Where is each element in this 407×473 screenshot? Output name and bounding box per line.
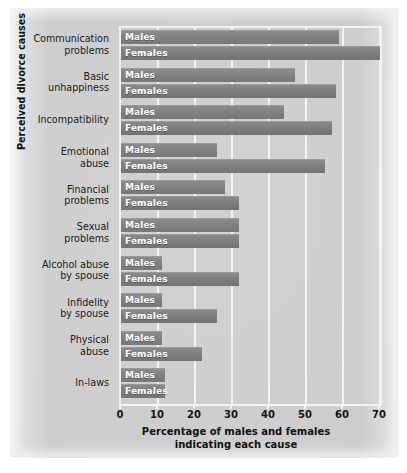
bar-series-label: Females bbox=[125, 196, 168, 210]
category-label-line: In-laws bbox=[0, 377, 109, 389]
bar-group: MalesFemales bbox=[121, 28, 380, 66]
x-tick-label-40: 40 bbox=[261, 409, 275, 420]
category-label: Sexualproblems bbox=[0, 221, 109, 244]
bar-series-label: Females bbox=[125, 234, 168, 248]
bar-group: MalesFemales bbox=[121, 254, 380, 292]
category-label: Infidelityby spouse bbox=[0, 297, 109, 320]
bar-series-label: Females bbox=[125, 121, 168, 135]
category-label: Incompatibility bbox=[0, 114, 109, 126]
category-label: Emotionalabuse bbox=[0, 146, 109, 169]
x-axis-title: Percentage of males and females indicati… bbox=[86, 425, 386, 451]
bar-series-label: Males bbox=[125, 143, 155, 157]
bar-groups: MalesFemalesMalesFemalesMalesFemalesMale… bbox=[121, 28, 380, 404]
bar-series-label: Males bbox=[125, 331, 155, 345]
bar-series-label: Females bbox=[125, 384, 168, 398]
category-label: Communicationproblems bbox=[0, 33, 109, 56]
bar-group: MalesFemales bbox=[121, 329, 380, 367]
bar-group: MalesFemales bbox=[121, 178, 380, 216]
bar-group: MalesFemales bbox=[121, 291, 380, 329]
bar-group: MalesFemales bbox=[121, 66, 380, 104]
category-label-line: Basic bbox=[0, 71, 109, 83]
bar-series-label: Males bbox=[125, 218, 155, 232]
x-axis-title-line2: indicating each cause bbox=[86, 438, 386, 451]
category-label: Physicalabuse bbox=[0, 334, 109, 357]
category-label: Basicunhappiness bbox=[0, 71, 109, 94]
category-label-line: abuse bbox=[0, 158, 109, 170]
plot-area: MalesFemalesMalesFemalesMalesFemalesMale… bbox=[119, 26, 382, 406]
category-label-line: problems bbox=[0, 233, 109, 245]
bar-series-label: Females bbox=[125, 309, 168, 323]
bar-series-label: Females bbox=[125, 159, 168, 173]
category-label-line: Sexual bbox=[0, 221, 109, 233]
category-label-line: by spouse bbox=[0, 308, 109, 320]
chart-figure: Perceived divorce causes Communicationpr… bbox=[0, 0, 407, 473]
x-tick-label-70: 70 bbox=[372, 409, 386, 420]
bar-series-label: Males bbox=[125, 68, 155, 82]
bar-series-label: Males bbox=[125, 368, 155, 382]
x-tick-label-60: 60 bbox=[335, 409, 349, 420]
category-label: In-laws bbox=[0, 377, 109, 389]
category-label-line: Infidelity bbox=[0, 297, 109, 309]
category-label-line: Emotional bbox=[0, 146, 109, 158]
category-label-line: abuse bbox=[0, 346, 109, 358]
category-label-line: problems bbox=[0, 45, 109, 57]
x-tick-label-50: 50 bbox=[298, 409, 312, 420]
category-label-line: Financial bbox=[0, 184, 109, 196]
x-tick-label-0: 0 bbox=[117, 409, 124, 420]
category-label: Alcohol abuseby spouse bbox=[0, 259, 109, 282]
x-axis-title-line1: Percentage of males and females bbox=[86, 425, 386, 438]
bar-series-label: Females bbox=[125, 46, 168, 60]
bar-group: MalesFemales bbox=[121, 366, 380, 404]
bar-group: MalesFemales bbox=[121, 141, 380, 179]
category-label-line: problems bbox=[0, 195, 109, 207]
bar-group: MalesFemales bbox=[121, 216, 380, 254]
bar-series-label: Females bbox=[125, 84, 168, 98]
bar-group: MalesFemales bbox=[121, 103, 380, 141]
bar-series-label: Males bbox=[125, 30, 155, 44]
category-label-line: Incompatibility bbox=[0, 114, 109, 126]
bar-series-label: Females bbox=[125, 347, 168, 361]
y-axis-category-labels: CommunicationproblemsBasicunhappinessInc… bbox=[0, 26, 114, 402]
x-tick-label-30: 30 bbox=[224, 409, 238, 420]
category-label-line: by spouse bbox=[0, 270, 109, 282]
category-label-line: Communication bbox=[0, 33, 109, 45]
category-label-line: Alcohol abuse bbox=[0, 259, 109, 271]
bar-series-label: Males bbox=[125, 293, 155, 307]
bar-series-label: Males bbox=[125, 105, 155, 119]
bar-series-label: Males bbox=[125, 180, 155, 194]
x-tick-label-10: 10 bbox=[150, 409, 164, 420]
bar-series-label: Males bbox=[125, 256, 155, 270]
bar-series-label: Females bbox=[125, 272, 168, 286]
category-label-line: unhappiness bbox=[0, 82, 109, 94]
x-tick-label-20: 20 bbox=[187, 409, 201, 420]
category-label: Financialproblems bbox=[0, 184, 109, 207]
category-label-line: Physical bbox=[0, 334, 109, 346]
